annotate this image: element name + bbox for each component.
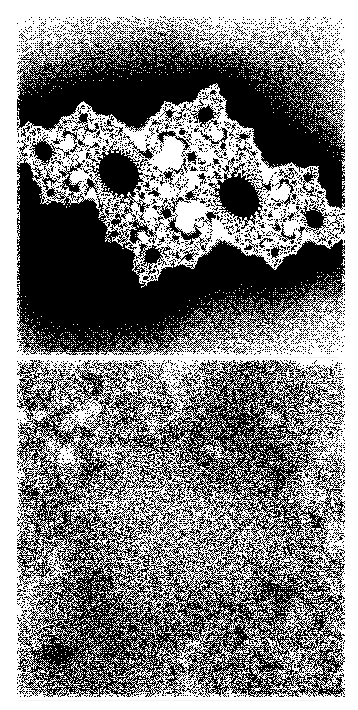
julia-set-image bbox=[17, 16, 345, 355]
scan-streak-bottom-gutter bbox=[18, 700, 318, 701]
noisy-fractal-basin-image bbox=[17, 360, 345, 697]
figure-panel-top bbox=[17, 16, 345, 355]
scan-streak-mid-gap bbox=[18, 357, 338, 358]
figure-sheet bbox=[0, 0, 358, 710]
figure-panel-bottom bbox=[17, 360, 345, 697]
